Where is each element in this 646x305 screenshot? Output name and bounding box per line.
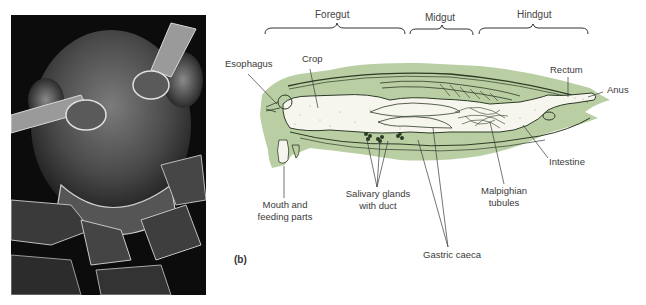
rectum-label: Rectum bbox=[550, 64, 583, 76]
digestive-system-diagram bbox=[0, 0, 646, 305]
mouth-feeding-parts-label: Mouth and feeding parts bbox=[255, 199, 315, 222]
salivary-glands-label: Salivary glands with duct bbox=[344, 188, 412, 211]
anus-label: Anus bbox=[607, 84, 629, 96]
midgut-label: Midgut bbox=[425, 12, 455, 23]
mouthparts bbox=[278, 140, 289, 163]
esophagus-label: Esophagus bbox=[225, 58, 273, 70]
intestine-label: Intestine bbox=[549, 156, 585, 168]
gastric-caeca-label: Gastric caeca bbox=[423, 249, 481, 261]
malpighian-tubules-label: Malpighian tubules bbox=[478, 185, 530, 208]
mouth-label-line1: Mouth and bbox=[255, 199, 315, 211]
foregut-label: Foregut bbox=[315, 9, 349, 20]
salivary-label-line1: Salivary glands bbox=[344, 188, 412, 200]
malpighian-label-line1: Malpighian bbox=[478, 185, 530, 197]
foregut-brace bbox=[265, 23, 405, 34]
hindgut-brace bbox=[479, 24, 588, 34]
midgut-brace bbox=[410, 25, 473, 35]
section-braces bbox=[265, 23, 588, 35]
panel-label-b: (b) bbox=[234, 254, 247, 265]
hindgut-label: Hindgut bbox=[517, 9, 551, 20]
crop-label: Crop bbox=[302, 53, 323, 65]
salivary-label-line2: with duct bbox=[344, 200, 412, 212]
mouth-label-line2: feeding parts bbox=[255, 211, 315, 223]
malpighian-label-line2: tubules bbox=[478, 197, 530, 209]
